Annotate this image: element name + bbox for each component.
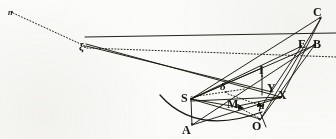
segment-S-to-A — [191, 99, 192, 125]
geometric-figure: nξCEBIYXSδMμAO — [0, 0, 336, 139]
vertex-xi — [84, 46, 86, 48]
segment-I-to-S-chord — [191, 68, 262, 99]
point-label-X: X — [278, 89, 287, 101]
dotted-line-group — [13, 13, 336, 118]
point-label-n: n — [8, 9, 12, 17]
point-label-A: A — [182, 124, 191, 136]
point-label-C: C — [313, 6, 322, 18]
point-label-O: O — [252, 120, 261, 132]
figure-canvas — [0, 0, 336, 139]
solid-line-group — [85, 17, 336, 127]
point-label-Y: Y — [267, 82, 276, 94]
segment-xi-to-Y — [86, 46, 272, 92]
point-label-B: B — [313, 38, 321, 50]
point-label-S: S — [181, 92, 188, 104]
vertex-group — [11, 11, 321, 125]
point-label-E: E — [298, 38, 306, 50]
segment-A-to-B — [192, 45, 314, 125]
point-label-xi: ξ — [79, 41, 84, 52]
point-label-M: M — [227, 98, 238, 110]
vertex-S — [190, 98, 192, 100]
point-label-I: I — [259, 64, 264, 76]
vertex-A — [191, 123, 193, 125]
segment-n-to-xi — [13, 13, 85, 46]
point-label-mu: μ — [259, 101, 265, 111]
segment-S-to-O — [191, 99, 260, 119]
point-label-delta: δ — [220, 81, 226, 92]
